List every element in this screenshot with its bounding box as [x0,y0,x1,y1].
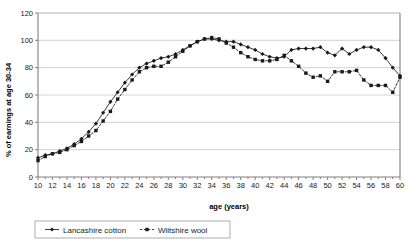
data-point-marker [203,37,206,40]
data-point-marker [304,71,307,74]
x-tick-label: 22 [121,181,129,190]
data-point-marker [123,88,126,91]
data-point-marker [239,51,242,54]
data-point-marker [152,65,155,68]
x-tick-label: 50 [323,181,331,190]
data-point-marker [101,119,104,122]
x-tick-label: 56 [367,181,375,190]
y-tick-label: 80 [25,63,33,72]
data-point-marker [398,76,401,79]
data-point-marker [167,61,170,64]
data-point-marker [225,41,228,44]
data-point-marker [348,70,351,73]
data-point-marker [109,110,112,113]
x-tick-label: 24 [135,181,143,190]
y-tick-label: 120 [20,9,33,18]
data-point-marker [217,37,220,40]
data-point-marker [268,59,271,62]
data-point-marker [44,155,47,158]
data-point-marker [254,58,257,61]
y-tick-label: 20 [25,145,33,154]
data-point-marker [87,134,90,137]
data-point-marker [94,129,97,132]
data-point-marker [116,97,119,100]
data-point-marker [319,74,322,77]
data-point-marker [159,65,162,68]
data-point-marker [145,228,148,231]
x-tick-label: 38 [237,181,245,190]
x-tick-label: 34 [208,181,216,190]
x-tick-label: 18 [92,181,100,190]
data-point-marker [145,66,148,69]
data-point-marker [210,36,213,39]
data-point-marker [58,151,61,154]
x-tick-label: 14 [63,181,71,190]
x-tick-label: 52 [338,181,346,190]
data-point-marker [73,144,76,147]
data-point-marker [362,78,365,81]
chart-background [0,0,415,247]
data-point-marker [290,59,293,62]
x-tick-label: 28 [164,181,172,190]
legend-label-2: Wiltshire wool [158,226,208,235]
x-tick-label: 30 [179,181,187,190]
data-point-marker [36,159,39,162]
data-point-marker [138,70,141,73]
y-tick-label: 40 [25,118,33,127]
y-tick-label: 60 [25,91,33,100]
data-point-marker [384,84,387,87]
data-point-marker [275,58,278,61]
x-tick-label: 58 [381,181,389,190]
x-tick-label: 60 [396,181,404,190]
data-point-marker [196,40,199,43]
data-point-marker [51,152,54,155]
data-point-marker [80,140,83,143]
x-tick-label: 16 [77,181,85,190]
data-point-marker [369,84,372,87]
x-tick-label: 40 [251,181,259,190]
x-tick-label: 32 [193,181,201,190]
x-axis-title: age (years) [209,202,249,211]
y-axis-title: % of earnings at age 30-34 [4,62,13,157]
data-point-marker [261,59,264,62]
x-tick-label: 44 [280,181,288,190]
data-point-marker [282,54,285,57]
data-point-marker [246,55,249,58]
data-point-marker [333,70,336,73]
data-point-marker [340,70,343,73]
data-point-marker [65,148,68,151]
data-point-marker [232,45,235,48]
chart-legend: Lancashire cottonWiltshire wool [35,221,230,238]
y-tick-label: 100 [20,36,33,45]
data-point-marker [355,69,358,72]
x-tick-label: 42 [266,181,274,190]
data-point-marker [174,55,177,58]
x-tick-label: 10 [34,181,42,190]
line-chart: 1012141618202224262830323436384042444648… [0,0,415,247]
data-point-marker [297,65,300,68]
data-point-marker [130,78,133,81]
x-tick-label: 20 [106,181,114,190]
x-tick-label: 46 [294,181,302,190]
legend-marker-2 [145,228,148,231]
x-tick-label: 48 [309,181,317,190]
chart-container: 1012141618202224262830323436384042444648… [0,0,415,247]
x-tick-label: 36 [222,181,230,190]
x-tick-label: 26 [150,181,158,190]
x-tick-label: 12 [48,181,56,190]
data-point-marker [311,76,314,79]
data-point-marker [188,44,191,47]
y-tick-label: 0 [29,173,33,182]
data-point-marker [377,84,380,87]
data-point-marker [181,50,184,53]
data-point-marker [326,80,329,83]
legend-label-1: Lancashire cotton [63,226,126,235]
data-point-marker [391,91,394,94]
x-tick-label: 54 [352,181,360,190]
